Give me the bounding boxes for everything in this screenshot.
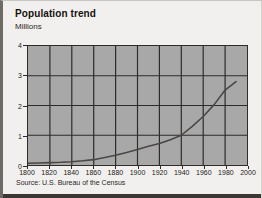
x-tick-mark — [226, 166, 227, 169]
source-note: Source: U.S. Bureau of the Census — [16, 179, 125, 186]
x-tick-mark — [248, 166, 249, 169]
x-tick-mark — [160, 166, 161, 169]
x-tick-mark — [204, 166, 205, 169]
x-tick-mark — [27, 166, 28, 169]
y-tick-label: 3 — [8, 72, 22, 79]
x-tick-mark — [93, 166, 94, 169]
y-tick-label: 4 — [8, 42, 22, 49]
population-line — [28, 82, 236, 164]
y-tick-label: 2 — [8, 102, 22, 109]
y-tick-mark — [23, 45, 27, 46]
plot-svg — [28, 46, 247, 165]
x-tick-mark — [138, 166, 139, 169]
y-tick-mark — [23, 106, 27, 107]
x-tick-label: 2000 — [235, 169, 261, 176]
y-tick-mark — [23, 75, 27, 76]
chart-figure: Population trend Millions 01234180018201… — [0, 0, 262, 198]
chart-title: Population trend — [15, 8, 96, 19]
y-tick-label: 1 — [8, 132, 22, 139]
x-tick-mark — [182, 166, 183, 169]
y-tick-mark — [23, 136, 27, 137]
y-axis-label: Millions — [15, 22, 42, 31]
plot-area — [27, 45, 248, 166]
x-tick-mark — [115, 166, 116, 169]
x-tick-mark — [49, 166, 50, 169]
x-tick-mark — [71, 166, 72, 169]
